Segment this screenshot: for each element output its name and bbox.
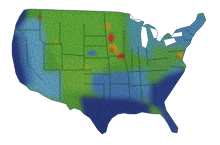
us-heat-map [0,0,220,145]
